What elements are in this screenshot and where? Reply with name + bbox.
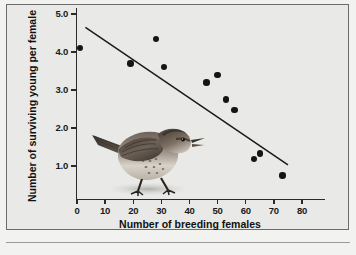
y-tick-mark xyxy=(71,127,76,128)
x-tick-label: 40 xyxy=(179,205,201,216)
x-tick-label: 70 xyxy=(263,205,285,216)
x-tick-label: 20 xyxy=(122,205,144,216)
x-tick-mark xyxy=(217,199,218,204)
scatter-point xyxy=(203,79,209,85)
figure-container: 1.02.03.04.05.0 01020304050607080 xyxy=(0,0,356,255)
x-tick-mark xyxy=(133,199,134,204)
y-tick-label: 2.0 xyxy=(42,122,68,133)
scatter-point xyxy=(279,172,285,178)
x-tick-label: 80 xyxy=(291,205,313,216)
y-tick-mark xyxy=(71,89,76,90)
scatter-point xyxy=(214,72,220,78)
scatter-point xyxy=(223,96,229,102)
x-tick-mark xyxy=(76,199,77,204)
y-tick-label: 4.0 xyxy=(42,46,68,57)
x-tick-label: 0 xyxy=(66,205,88,216)
x-tick-mark xyxy=(273,199,274,204)
x-tick-label: 10 xyxy=(94,205,116,216)
figure-baseline-rule xyxy=(6,242,350,243)
scatter-point xyxy=(231,107,237,113)
y-tick-mark xyxy=(71,51,76,52)
x-tick-label: 50 xyxy=(207,205,229,216)
x-tick-mark xyxy=(189,199,190,204)
y-tick-label: 3.0 xyxy=(42,84,68,95)
x-tick-mark xyxy=(301,199,302,204)
x-tick-mark xyxy=(245,199,246,204)
x-axis-title: Number of breeding females xyxy=(60,218,320,230)
y-axis-title: Number of surviving young per female xyxy=(26,8,38,204)
scatter-point xyxy=(127,60,133,66)
y-tick-mark xyxy=(71,13,76,14)
x-tick-label: 60 xyxy=(235,205,257,216)
y-tick-mark xyxy=(71,165,76,166)
x-tick-mark xyxy=(104,199,105,204)
x-axis-line xyxy=(77,199,325,200)
x-tick-label: 30 xyxy=(150,205,172,216)
y-tick-label: 5.0 xyxy=(42,8,68,19)
scatter-point xyxy=(257,150,263,156)
y-tick-label: 1.0 xyxy=(42,160,68,171)
song-sparrow-photo xyxy=(88,105,212,197)
x-tick-mark xyxy=(161,199,162,204)
scatter-point xyxy=(153,36,159,42)
y-axis-line xyxy=(76,8,77,200)
